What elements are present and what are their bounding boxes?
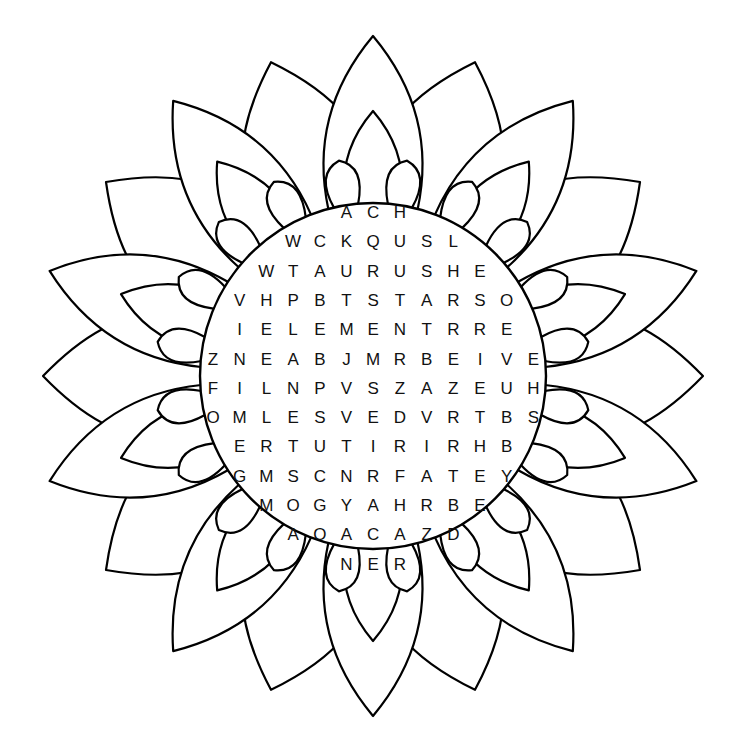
- grid-letter[interactable]: L: [255, 407, 277, 429]
- grid-letter[interactable]: R: [362, 466, 384, 488]
- grid-letter[interactable]: B: [496, 436, 518, 458]
- grid-letter[interactable]: R: [442, 436, 464, 458]
- grid-letter[interactable]: A: [416, 466, 438, 488]
- grid-letter[interactable]: S: [362, 378, 384, 400]
- grid-letter[interactable]: E: [362, 554, 384, 576]
- grid-letter[interactable]: E: [469, 466, 491, 488]
- grid-letter[interactable]: F: [202, 378, 224, 400]
- grid-letter[interactable]: T: [416, 319, 438, 341]
- grid-letter[interactable]: T: [469, 407, 491, 429]
- grid-letter[interactable]: O: [202, 407, 224, 429]
- grid-letter[interactable]: D: [389, 407, 411, 429]
- grid-letter[interactable]: N: [282, 378, 304, 400]
- grid-letter[interactable]: I: [469, 349, 491, 371]
- grid-letter[interactable]: Z: [416, 524, 438, 546]
- grid-letter[interactable]: V: [496, 349, 518, 371]
- grid-letter[interactable]: Z: [202, 349, 224, 371]
- grid-letter[interactable]: Z: [442, 378, 464, 400]
- grid-letter[interactable]: Z: [389, 378, 411, 400]
- grid-letter[interactable]: A: [336, 202, 358, 224]
- grid-letter[interactable]: B: [416, 349, 438, 371]
- grid-letter[interactable]: T: [282, 436, 304, 458]
- grid-letter[interactable]: I: [229, 319, 251, 341]
- grid-letter[interactable]: R: [442, 319, 464, 341]
- grid-letter[interactable]: C: [309, 466, 331, 488]
- grid-letter[interactable]: H: [389, 202, 411, 224]
- grid-letter[interactable]: W: [255, 261, 277, 283]
- grid-letter[interactable]: E: [469, 378, 491, 400]
- grid-letter[interactable]: S: [282, 466, 304, 488]
- grid-letter[interactable]: P: [309, 378, 331, 400]
- grid-letter[interactable]: Q: [362, 231, 384, 253]
- grid-letter[interactable]: E: [362, 319, 384, 341]
- grid-letter[interactable]: T: [336, 436, 358, 458]
- grid-letter[interactable]: E: [309, 319, 331, 341]
- grid-letter[interactable]: B: [442, 495, 464, 517]
- grid-letter[interactable]: E: [469, 495, 491, 517]
- grid-letter[interactable]: R: [362, 261, 384, 283]
- grid-letter[interactable]: L: [282, 319, 304, 341]
- grid-letter[interactable]: I: [416, 436, 438, 458]
- grid-letter[interactable]: O: [282, 495, 304, 517]
- grid-letter[interactable]: A: [282, 349, 304, 371]
- grid-letter[interactable]: B: [496, 407, 518, 429]
- grid-letter[interactable]: E: [255, 319, 277, 341]
- grid-letter[interactable]: R: [255, 436, 277, 458]
- grid-letter[interactable]: H: [522, 378, 544, 400]
- grid-letter[interactable]: K: [336, 231, 358, 253]
- grid-letter[interactable]: N: [336, 554, 358, 576]
- grid-letter[interactable]: L: [442, 231, 464, 253]
- grid-letter[interactable]: E: [255, 349, 277, 371]
- grid-letter[interactable]: T: [389, 290, 411, 312]
- grid-letter[interactable]: P: [282, 290, 304, 312]
- grid-letter[interactable]: H: [389, 495, 411, 517]
- grid-letter[interactable]: A: [416, 290, 438, 312]
- grid-letter[interactable]: E: [362, 407, 384, 429]
- grid-letter[interactable]: T: [336, 290, 358, 312]
- grid-letter[interactable]: L: [255, 378, 277, 400]
- grid-letter[interactable]: U: [496, 378, 518, 400]
- grid-letter[interactable]: N: [229, 349, 251, 371]
- grid-letter[interactable]: S: [522, 407, 544, 429]
- grid-letter[interactable]: H: [255, 290, 277, 312]
- grid-letter[interactable]: B: [309, 290, 331, 312]
- grid-letter[interactable]: V: [336, 407, 358, 429]
- grid-letter[interactable]: C: [362, 524, 384, 546]
- grid-letter[interactable]: I: [362, 436, 384, 458]
- grid-letter[interactable]: M: [336, 319, 358, 341]
- grid-letter[interactable]: N: [336, 466, 358, 488]
- grid-letter[interactable]: A: [416, 378, 438, 400]
- grid-letter[interactable]: E: [282, 407, 304, 429]
- grid-letter[interactable]: E: [442, 349, 464, 371]
- grid-letter[interactable]: S: [416, 231, 438, 253]
- grid-letter[interactable]: Y: [336, 495, 358, 517]
- grid-letter[interactable]: Y: [496, 466, 518, 488]
- grid-letter[interactable]: O: [309, 524, 331, 546]
- grid-letter[interactable]: I: [229, 378, 251, 400]
- grid-letter[interactable]: S: [416, 261, 438, 283]
- grid-letter[interactable]: E: [522, 349, 544, 371]
- grid-letter[interactable]: S: [362, 290, 384, 312]
- grid-letter[interactable]: R: [442, 290, 464, 312]
- grid-letter[interactable]: R: [442, 407, 464, 429]
- grid-letter[interactable]: R: [389, 436, 411, 458]
- grid-letter[interactable]: R: [416, 495, 438, 517]
- grid-letter[interactable]: N: [389, 319, 411, 341]
- grid-letter[interactable]: A: [282, 524, 304, 546]
- grid-letter[interactable]: T: [442, 466, 464, 488]
- grid-letter[interactable]: S: [469, 290, 491, 312]
- grid-letter[interactable]: A: [336, 524, 358, 546]
- grid-letter[interactable]: V: [229, 290, 251, 312]
- grid-letter[interactable]: D: [442, 524, 464, 546]
- grid-letter[interactable]: M: [255, 466, 277, 488]
- grid-letter[interactable]: R: [389, 554, 411, 576]
- grid-letter[interactable]: G: [229, 466, 251, 488]
- grid-letter[interactable]: R: [389, 349, 411, 371]
- grid-letter[interactable]: F: [389, 466, 411, 488]
- grid-letter[interactable]: A: [362, 495, 384, 517]
- grid-letter[interactable]: U: [389, 261, 411, 283]
- grid-letter[interactable]: W: [282, 231, 304, 253]
- grid-letter[interactable]: A: [389, 524, 411, 546]
- grid-letter[interactable]: U: [389, 231, 411, 253]
- grid-letter[interactable]: T: [282, 261, 304, 283]
